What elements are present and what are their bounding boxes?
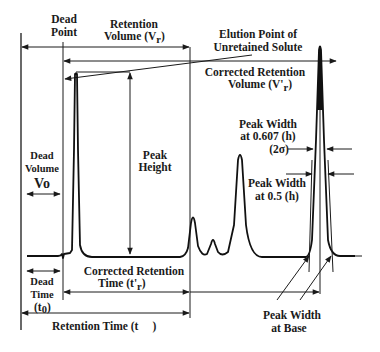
svg-text:Dead: Dead <box>30 276 53 287</box>
peak-width-base-label: Peak Width at Base <box>263 309 322 334</box>
svg-text:at 0.5 (h): at 0.5 (h) <box>255 190 299 203</box>
dead-time-label: Dead Time (t0) <box>30 276 54 315</box>
svg-text:(2σ): (2σ) <box>269 143 289 156</box>
svg-text:Peak Width: Peak Width <box>263 309 322 321</box>
retention-time-label: Retention Time (t) <box>52 320 156 333</box>
peak-width-0607-label: Peak Width at 0.607 (h) (2σ) <box>239 118 298 156</box>
svg-text:Volume: Volume <box>25 163 59 174</box>
svg-text:Corrected Retention: Corrected Retention <box>205 66 306 78</box>
svg-text:at 0.607 (h): at 0.607 (h) <box>240 130 295 143</box>
svg-text:Vo: Vo <box>34 176 50 191</box>
svg-text:Time: Time <box>30 289 53 300</box>
svg-text:Retention Time (t): Retention Time (t) <box>52 320 156 333</box>
svg-text:(t0): (t0) <box>34 301 51 315</box>
peak-height-label: Peak Height <box>138 149 171 174</box>
svg-text:Unretained Solute: Unretained Solute <box>214 41 303 53</box>
corrected-retention-time-label: Corrected Retention Time (t'r) <box>84 265 185 292</box>
svg-text:Dead: Dead <box>51 13 77 25</box>
svg-text:Peak Width: Peak Width <box>239 118 298 130</box>
svg-text:Elution Point of: Elution Point of <box>219 28 297 40</box>
chromatogram-diagram: Dead Point Retention Volume (Vr) Elution… <box>0 0 380 352</box>
svg-text:Point: Point <box>51 26 77 38</box>
svg-text:Peak: Peak <box>143 149 168 161</box>
elution-point-label: Elution Point of Unretained Solute <box>214 28 303 53</box>
svg-text:at Base: at Base <box>271 322 306 334</box>
svg-text:Time (t'r): Time (t'r) <box>98 277 146 292</box>
svg-text:Volume (Vr): Volume (Vr) <box>104 30 165 45</box>
svg-text:Retention: Retention <box>110 18 159 30</box>
peak-width-05-label: Peak Width at 0.5 (h) <box>248 177 307 203</box>
dead-volume-label: Dead Volume Vo <box>25 150 59 191</box>
svg-text:Height: Height <box>138 161 171 174</box>
chromatogram-trace <box>27 47 355 259</box>
svg-text:Volume (V'r): Volume (V'r) <box>228 78 292 93</box>
left-tangent-line <box>309 160 312 272</box>
svg-text:Peak Width: Peak Width <box>248 177 307 189</box>
svg-text:Corrected Retention: Corrected Retention <box>84 265 185 277</box>
svg-text:Dead: Dead <box>30 150 53 161</box>
right-tangent-line <box>328 160 333 272</box>
dead-point-label: Dead Point <box>51 13 77 38</box>
retention-volume-label: Retention Volume (Vr) <box>104 18 165 45</box>
corrected-retention-volume-label: Corrected Retention Volume (V'r) <box>205 66 306 93</box>
